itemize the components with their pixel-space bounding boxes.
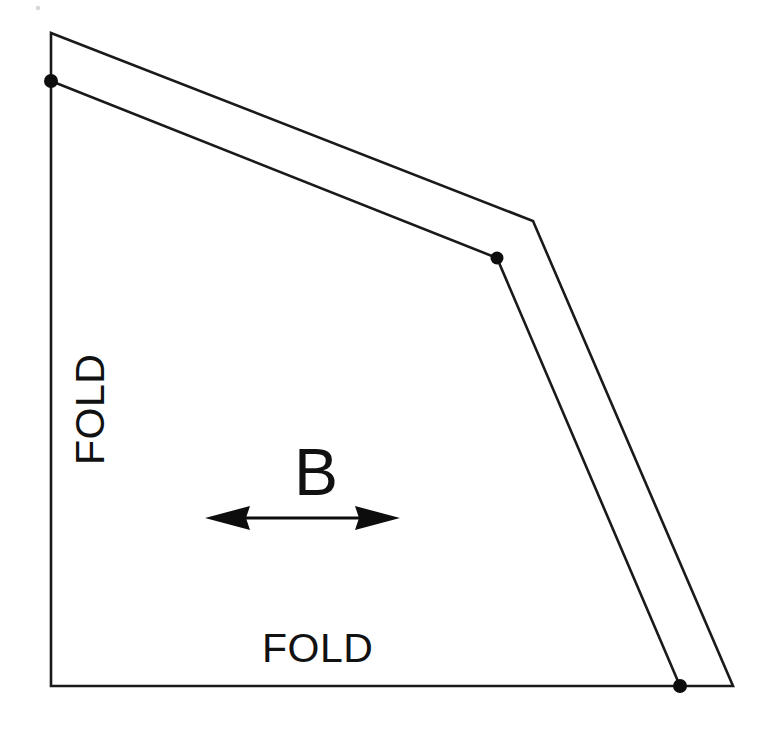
inner-crease-line: [51, 81, 680, 686]
fold-label-vertical: FOLD: [70, 354, 111, 465]
fold-pattern-diagram: [0, 0, 770, 732]
fold-diagram-page: FOLD FOLD B: [0, 0, 770, 732]
panel-b-width-arrow: [205, 506, 400, 530]
panel-b-label: B: [294, 439, 338, 505]
arrow-head-left-icon: [205, 506, 250, 530]
outer-panel-outline: [51, 33, 733, 686]
scan-speck-artifact: [36, 6, 40, 10]
fold-label-horizontal: FOLD: [262, 628, 373, 669]
crease-vertex-dot: [491, 252, 504, 265]
arrow-head-right-icon: [355, 506, 400, 530]
crease-end-dot: [673, 679, 687, 693]
crease-start-dot: [44, 74, 58, 88]
